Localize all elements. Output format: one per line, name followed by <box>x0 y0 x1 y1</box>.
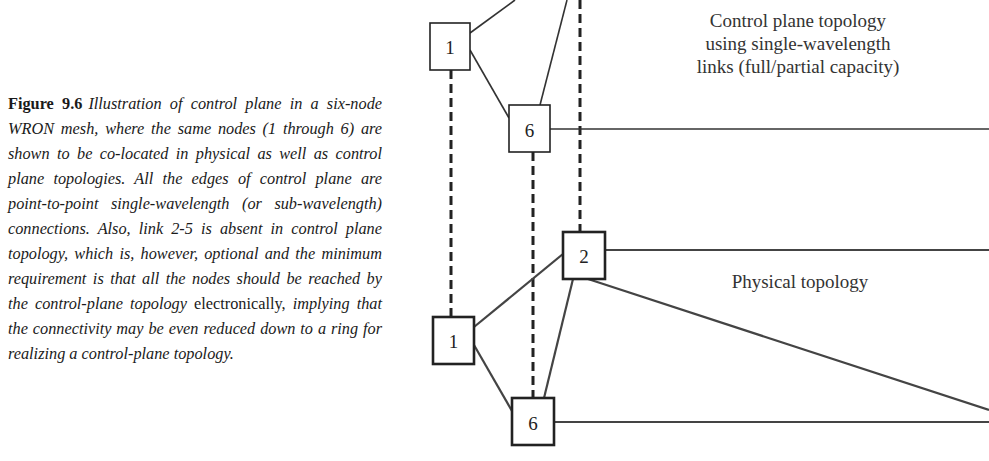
physical-edge-1-6 <box>474 345 512 411</box>
physical-node-2: 2 <box>563 232 605 279</box>
control-edge-1-6 <box>470 50 509 118</box>
control-node-1-label: 1 <box>445 37 455 58</box>
physical-node-6: 6 <box>512 398 554 445</box>
physical-node-6-label: 6 <box>528 413 538 434</box>
physical-node-2-label: 2 <box>579 246 589 267</box>
physical-node-1-label: 1 <box>449 331 459 352</box>
physical-edge-6-2 <box>544 279 573 398</box>
control-node-1: 1 <box>430 23 470 70</box>
network-diagram: 1 6 2 1 6 Control plane topology using s… <box>0 0 989 461</box>
physical-topology-label: Physical topology <box>732 271 869 292</box>
physical-edge-1-2 <box>474 254 563 327</box>
physical-node-1: 1 <box>433 317 474 364</box>
physical-edge-2-diagonal <box>588 279 989 410</box>
control-plane-label-line-1: Control plane topology <box>710 10 887 31</box>
control-node-6-label: 6 <box>525 120 535 141</box>
control-node-6: 6 <box>509 105 550 152</box>
control-plane-label-line-2: using single-wavelength <box>705 33 891 54</box>
control-edge-6-2 <box>540 0 567 105</box>
control-edge-1-2 <box>470 0 515 33</box>
control-plane-label: Control plane topology using single-wave… <box>697 10 900 78</box>
control-plane-label-line-3: links (full/partial capacity) <box>697 56 900 78</box>
